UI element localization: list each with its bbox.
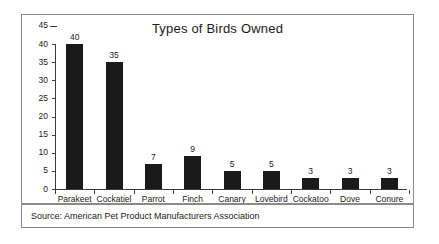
bar [302, 178, 319, 189]
x-axis-tick [330, 190, 331, 194]
y-axis-tick [52, 171, 56, 172]
bar-value-label: 40 [55, 33, 94, 42]
plot-canvas: 05101520253035404540Parakeet35Cockatiel7… [22, 15, 413, 203]
chart-plot-area: Types of Birds Owned 0510152025303540454… [22, 15, 413, 203]
bar [263, 171, 280, 189]
x-axis-line [55, 189, 407, 190]
bar-value-label: 3 [370, 167, 409, 176]
y-axis-tick-label: 40 [27, 40, 48, 49]
x-axis-tick [173, 190, 174, 194]
bar-value-label: 3 [330, 167, 369, 176]
source-row: Source: American Pet Product Manufacture… [22, 205, 413, 228]
y-axis-tick [50, 26, 57, 27]
y-axis-tick-label: 0 [27, 185, 48, 194]
y-axis-tick-label: 30 [27, 76, 48, 85]
chart-figure: Types of Birds Owned 0510152025303540454… [21, 14, 414, 228]
y-axis-tick [52, 62, 56, 63]
x-axis-tick [252, 190, 253, 194]
y-axis-tick-label: 35 [27, 58, 48, 67]
y-axis-tick [52, 44, 56, 45]
y-axis-tick [52, 117, 56, 118]
x-axis-tick [370, 190, 371, 194]
bar [145, 164, 162, 189]
y-axis-tick [52, 98, 56, 99]
y-axis-tick [52, 153, 56, 154]
bar-value-label: 5 [252, 160, 291, 169]
x-axis-tick [291, 190, 292, 194]
source-text: Source: American Pet Product Manufacture… [22, 211, 260, 221]
bar-value-label: 3 [291, 167, 330, 176]
bar-value-label: 7 [134, 153, 173, 162]
y-axis-tick [52, 80, 56, 81]
y-axis-tick-label: 5 [27, 166, 48, 175]
x-axis-tick [94, 190, 95, 194]
bar-value-label: 35 [94, 51, 133, 60]
bar [224, 171, 241, 189]
bar [184, 156, 201, 189]
bar-value-label: 9 [173, 145, 212, 154]
x-axis-tick [409, 190, 410, 194]
bar [66, 44, 83, 189]
x-axis-tick [134, 190, 135, 194]
bar [381, 178, 398, 189]
bar [106, 62, 123, 189]
y-axis-tick-label: 25 [27, 94, 48, 103]
y-axis-tick [52, 135, 56, 136]
x-axis-tick [55, 190, 56, 194]
y-axis-tick-label: 15 [27, 130, 48, 139]
bar [342, 178, 359, 189]
y-axis-tick-label: 20 [27, 112, 48, 121]
x-axis-tick [212, 190, 213, 194]
y-axis-tick-label: 10 [27, 148, 48, 157]
y-axis-tick-label: 45 [27, 21, 48, 30]
bar-value-label: 5 [212, 160, 251, 169]
